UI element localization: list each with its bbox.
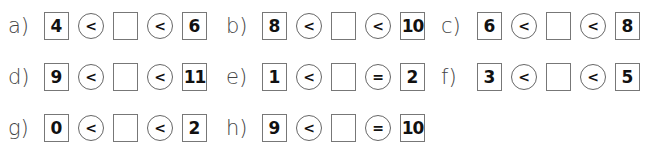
left-number-box: 9 — [262, 114, 287, 142]
left-number-box: 8 — [262, 12, 287, 40]
exercise-g: g) 0 < < 2 — [8, 113, 207, 143]
answer-box[interactable] — [331, 63, 356, 91]
exercise-label: h) — [226, 113, 260, 143]
exercise-a: a) 4 < < 6 — [8, 11, 207, 41]
exercise-d: d) 9 < < 11 — [8, 62, 207, 92]
answer-box[interactable] — [546, 12, 571, 40]
right-number-box: 10 — [400, 114, 425, 142]
comparison-operator: < — [511, 64, 537, 90]
exercise-f: f) 3 < < 5 — [441, 62, 640, 92]
comparison-operator: < — [296, 115, 322, 141]
exercise-label: d) — [8, 62, 42, 92]
exercise-h: h) 9 < = 10 — [226, 113, 425, 143]
answer-box[interactable] — [546, 63, 571, 91]
comparison-operator: < — [580, 13, 606, 39]
exercise-label: c) — [441, 11, 475, 41]
exercise-label: f) — [441, 62, 475, 92]
answer-box[interactable] — [113, 63, 138, 91]
comparison-operator: < — [147, 64, 173, 90]
comparison-operator: < — [580, 64, 606, 90]
comparison-operator: < — [78, 115, 104, 141]
exercise-e: e) 1 < = 2 — [226, 62, 425, 92]
equals-operator: = — [365, 64, 391, 90]
comparison-operator: < — [511, 13, 537, 39]
left-number-box: 1 — [262, 63, 287, 91]
comparison-operator: < — [147, 115, 173, 141]
right-number-box: 10 — [400, 12, 425, 40]
answer-box[interactable] — [113, 12, 138, 40]
right-number-box: 5 — [615, 63, 640, 91]
right-number-box: 6 — [182, 12, 207, 40]
answer-box[interactable] — [331, 114, 356, 142]
exercise-label: b) — [226, 11, 260, 41]
left-number-box: 4 — [44, 12, 69, 40]
comparison-operator: < — [78, 13, 104, 39]
equals-operator: = — [365, 115, 391, 141]
right-number-box: 2 — [400, 63, 425, 91]
right-number-box: 8 — [615, 12, 640, 40]
answer-box[interactable] — [331, 12, 356, 40]
exercise-c: c) 6 < < 8 — [441, 11, 640, 41]
left-number-box: 9 — [44, 63, 69, 91]
left-number-box: 0 — [44, 114, 69, 142]
comparison-operator: < — [365, 13, 391, 39]
comparison-operator: < — [296, 13, 322, 39]
exercise-label: e) — [226, 62, 260, 92]
comparison-operator: < — [147, 13, 173, 39]
comparison-operator: < — [78, 64, 104, 90]
exercise-label: g) — [8, 113, 42, 143]
right-number-box: 11 — [182, 63, 207, 91]
exercise-label: a) — [8, 11, 42, 41]
answer-box[interactable] — [113, 114, 138, 142]
comparison-operator: < — [296, 64, 322, 90]
left-number-box: 6 — [477, 12, 502, 40]
exercise-b: b) 8 < < 10 — [226, 11, 425, 41]
right-number-box: 2 — [182, 114, 207, 142]
left-number-box: 3 — [477, 63, 502, 91]
